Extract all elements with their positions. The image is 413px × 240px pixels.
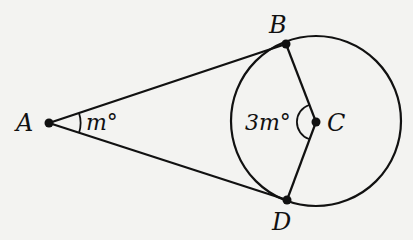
angle-arc-a <box>79 113 81 133</box>
point-c <box>312 118 321 127</box>
angle-label-c: 3m° <box>245 110 291 135</box>
label-a: A <box>14 109 33 137</box>
label-d: D <box>271 208 291 236</box>
angle-arc-c <box>297 105 309 139</box>
point-b <box>282 40 291 49</box>
label-c: C <box>327 109 345 137</box>
geometry-diagram: A B C D m° 3m° <box>0 0 413 240</box>
point-a <box>45 119 54 128</box>
point-d <box>283 196 292 205</box>
label-b: B <box>268 11 287 39</box>
angle-label-a: m° <box>86 110 118 135</box>
